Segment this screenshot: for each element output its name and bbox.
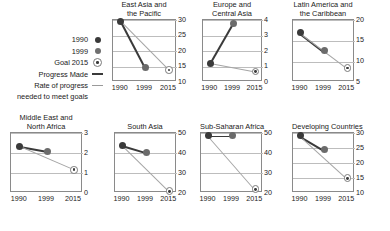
data-point-goal-2015: [344, 64, 352, 72]
small-multiples-figure: 1990 1999 Goal 2015 Progress Made Rate o…: [0, 0, 390, 231]
goal-marker-core: [168, 69, 171, 72]
legend-label-rate-needed: Rate of progress: [34, 81, 88, 90]
chart-panel: Europe andCentral Asia01234199019992015: [202, 0, 262, 92]
plot-frame: [292, 19, 354, 81]
legend-label-progress-made: Progress Made: [39, 70, 88, 79]
plot-frame: [292, 132, 354, 192]
y-axis-tick-label: 3: [84, 129, 98, 136]
progress-made-line: [209, 24, 233, 64]
panel-title-line: Developing Countries: [292, 122, 354, 131]
y-axis-tick-label: 10: [356, 57, 370, 64]
x-axis-tick-label: 1990: [110, 195, 132, 202]
panel-title-line: East Asia and: [112, 0, 176, 9]
line-dark-icon: [91, 73, 104, 75]
gridline: [113, 51, 177, 52]
chart-panel: South Asia20304050199019992015: [114, 122, 176, 203]
x-axis-tick-label: 2015: [157, 84, 179, 91]
y-axis-tick-label: 25: [356, 144, 370, 151]
panel-title: Latin America andthe Caribbean: [292, 0, 354, 18]
data-point-1990: [119, 142, 126, 149]
y-axis-tick-label: 10: [178, 78, 192, 85]
dot-gray-icon: [91, 48, 104, 54]
y-axis-tick-label: 25: [178, 31, 192, 38]
gridline: [203, 36, 263, 37]
y-axis-tick-label: 0: [84, 189, 98, 196]
y-axis-tick-label: 2: [84, 149, 98, 156]
legend-label-rate-needed-continuation: needed to meet goals: [0, 92, 104, 102]
panel-title-line: South Asia: [114, 122, 176, 131]
x-axis-tick-label: 2015: [335, 84, 357, 91]
chart-panel: Latin America andthe Caribbean5101520199…: [292, 0, 354, 92]
x-axis-tick-label: 1990: [8, 195, 30, 202]
x-axis-tick-label: 1990: [109, 84, 131, 91]
x-axis-tick-label: 1999: [133, 84, 155, 91]
legend-label-goal-2015: Goal 2015: [54, 58, 88, 67]
y-axis-tick-label: 4: [264, 16, 278, 23]
plot-frame: [200, 132, 262, 192]
legend-item-rate-needed: Rate of progress: [0, 80, 104, 92]
legend-item-1999: 1999: [0, 46, 104, 58]
gridline: [201, 173, 263, 174]
y-axis-tick-label: 20: [356, 159, 370, 166]
y-axis-tick-label: 30: [178, 169, 192, 176]
y-axis-tick-label: 15: [178, 62, 192, 69]
plot-area: 1015202530199019992015: [292, 132, 354, 203]
data-point-goal-2015: [252, 68, 260, 76]
y-axis-tick-label: 2: [264, 47, 278, 54]
gridline: [113, 36, 177, 37]
x-axis-tick-label: 1999: [220, 195, 242, 202]
gridline: [11, 173, 83, 174]
data-point-goal-2015: [344, 174, 352, 182]
x-axis-tick-label: 1999: [312, 195, 334, 202]
plot-area: 0123199019992015: [10, 132, 82, 203]
rate-needed-line: [300, 136, 348, 179]
x-axis-tick-label: 1999: [134, 195, 156, 202]
panel-title-line: Middle East and: [10, 113, 82, 122]
x-axis-tick-label: 1990: [288, 84, 310, 91]
data-point-1999: [142, 64, 149, 71]
chart-panel: East Asia andthe Pacific1015202530199019…: [112, 0, 176, 92]
dot-dark-icon: [91, 37, 104, 43]
y-axis-tick-label: 0: [264, 78, 278, 85]
line-gray-icon: [91, 85, 104, 86]
legend-item-progress-made: Progress Made: [0, 69, 104, 81]
y-axis-tick-label: 30: [178, 16, 192, 23]
y-axis-tick-label: 20: [178, 47, 192, 54]
gridline: [293, 62, 355, 63]
x-axis-tick-label: 1999: [312, 84, 334, 91]
plot-frame: [10, 132, 82, 192]
plot-area: 20304050199019992015: [114, 132, 176, 203]
panel-title-line: Europe and: [202, 0, 262, 9]
y-axis-tick-label: 1: [84, 169, 98, 176]
legend-item-goal-2015: Goal 2015: [0, 57, 104, 69]
gridline: [293, 41, 355, 42]
y-axis-tick-label: 15: [356, 174, 370, 181]
data-point-1999: [143, 149, 150, 156]
goal-marker-core: [73, 168, 76, 171]
y-axis-tick-label: 3: [264, 31, 278, 38]
x-axis-tick-label: 1990: [288, 195, 310, 202]
panel-title-line: Sub-Saharan Africa: [200, 122, 262, 131]
panel-title: South Asia: [114, 122, 176, 131]
x-axis-tick-label: 2015: [243, 195, 265, 202]
panel-title: Sub-Saharan Africa: [200, 122, 262, 131]
y-axis-tick-label: 50: [264, 129, 278, 136]
legend-label-1990: 1990: [72, 35, 88, 44]
gridline: [293, 20, 355, 21]
panel-title-line: Central Asia: [202, 9, 262, 18]
legend: 1990 1999 Goal 2015 Progress Made Rate o…: [0, 34, 104, 101]
data-point-1990: [117, 18, 124, 25]
goal-marker-core: [254, 188, 257, 191]
chart-panel: Developing Countries10152025301990199920…: [292, 122, 354, 203]
data-point-1999: [44, 148, 51, 155]
x-axis-tick-label: 1990: [198, 84, 220, 91]
panel-title-line: North Africa: [10, 122, 82, 131]
goal-marker-core: [254, 70, 257, 73]
plot-area: 1015202530199019992015: [112, 19, 176, 92]
gridline: [293, 163, 355, 164]
legend-item-1990: 1990: [0, 34, 104, 46]
panel-title-line: the Pacific: [112, 9, 176, 18]
x-axis-tick-label: 1990: [196, 195, 218, 202]
goal-marker-core: [346, 67, 349, 70]
y-axis-tick-label: 15: [356, 36, 370, 43]
